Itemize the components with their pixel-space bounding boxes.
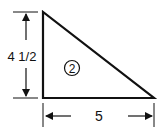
right-triangle (43, 12, 154, 98)
base-label: 5 (95, 108, 103, 124)
height-label: 4 1/2 (8, 49, 37, 64)
triangle-diagram: 4 1/2 5 2 (0, 0, 165, 138)
region-number-label: 2 (69, 62, 76, 76)
